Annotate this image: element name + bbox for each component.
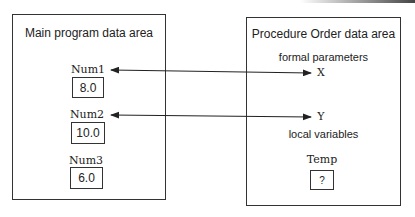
arrow-num1-x — [111, 70, 311, 73]
binding-arrows — [0, 0, 415, 217]
arrow-num2-y — [111, 115, 311, 117]
